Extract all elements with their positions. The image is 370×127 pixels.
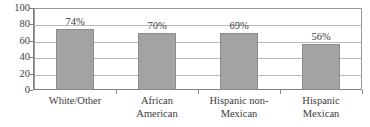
bar-value-label: 74% — [45, 16, 105, 27]
bar-value-label: 56% — [291, 31, 351, 42]
x-axis-tick-mark — [280, 90, 281, 94]
y-axis-tick-label: 60 — [0, 36, 30, 46]
bar-value-label: 70% — [127, 20, 187, 31]
category-label-line: African — [113, 95, 201, 108]
y-axis-tick-mark — [29, 24, 33, 25]
bar — [56, 29, 94, 90]
y-axis-tick-labels: 020406080100 — [0, 8, 30, 90]
y-axis-tick-mark — [29, 8, 33, 9]
y-axis-tick-label: 40 — [0, 52, 30, 62]
category-label-line: American — [113, 108, 201, 121]
x-axis-category-label: White/Other — [31, 95, 119, 108]
x-axis-category-label: AfricanAmerican — [113, 95, 201, 120]
y-axis-tick-label: 0 — [0, 85, 30, 95]
x-axis-tick-mark — [116, 90, 117, 94]
x-axis-category-label: HispanicMexican — [277, 95, 365, 120]
x-axis-tick-mark — [362, 90, 363, 94]
category-label-line: Hispanic — [277, 95, 365, 108]
bar — [138, 33, 176, 90]
y-axis-tick-label: 100 — [0, 3, 30, 13]
y-axis-tick-label: 80 — [0, 19, 30, 29]
y-axis-tick-label: 20 — [0, 69, 30, 79]
category-label-line: Hispanic non- — [195, 95, 283, 108]
category-label-line: Mexican — [277, 108, 365, 121]
bar — [302, 44, 340, 90]
y-axis-tick-mark — [29, 57, 33, 58]
bar — [220, 33, 258, 90]
category-label-line: Mexican — [195, 108, 283, 121]
category-label-line: White/Other — [31, 95, 119, 108]
x-axis-tick-mark — [198, 90, 199, 94]
y-axis-tick-mark — [29, 90, 33, 91]
y-axis-tick-mark — [29, 74, 33, 75]
bar-value-label: 69% — [209, 20, 269, 31]
y-axis-tick-mark — [29, 41, 33, 42]
bar-chart: 020406080100 74%White/Other70%AfricanAme… — [0, 0, 370, 127]
x-axis-category-label: Hispanic non-Mexican — [195, 95, 283, 120]
